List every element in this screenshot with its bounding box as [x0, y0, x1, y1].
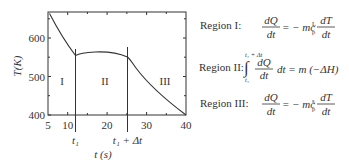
- eq3-num: dQ: [264, 91, 278, 103]
- eq1-den2: dt: [322, 28, 332, 40]
- equation-region-1: Region I: dQ dt = − mc L p dT dt: [200, 14, 335, 40]
- eq2-lower: t₁: [245, 76, 249, 83]
- x-tick-20: 20: [102, 119, 114, 131]
- y-tick-labels: 400 500 600: [29, 32, 46, 121]
- eq1-num: dQ: [264, 14, 278, 26]
- equation-region-2: Region II: ∫ t₁ + Δt t₁ dQ dt dt = m (−Δ…: [199, 51, 339, 83]
- region-label-3: III: [160, 75, 171, 87]
- x-axis-label: t (s): [94, 148, 112, 161]
- plot-frame: [48, 12, 186, 115]
- x-tick-30: 30: [141, 119, 153, 131]
- region-label-2: II: [101, 75, 109, 87]
- eq3-num2: dT: [320, 91, 333, 103]
- y-tick-500: 500: [29, 71, 46, 83]
- t1-dt-label: t₁ + Δt: [113, 134, 143, 146]
- eq2-den: dt: [260, 69, 270, 81]
- eq3-label: Region III:: [200, 97, 249, 109]
- y-ticks: [48, 19, 186, 115]
- y-tick-600: 600: [29, 32, 46, 44]
- temperature-chart: 400 500 600 5 10 20 30 40 I II III t₁ t₁…: [0, 0, 349, 165]
- eq1-num2: dT: [320, 14, 333, 26]
- equation-region-3: Region III: dQ dt = − mc s p dT dt: [200, 91, 335, 117]
- region-label-1: I: [60, 75, 64, 87]
- eq1-sup: L: [312, 20, 316, 27]
- y-tick-400: 400: [29, 109, 46, 121]
- x-tick-labels: 5 10 20 30 40: [45, 119, 192, 131]
- integral-sign: ∫: [243, 58, 250, 78]
- eq3-den2: dt: [322, 105, 332, 117]
- y-axis-label: T(K): [11, 55, 24, 76]
- eq2-rhs: dt = m (−ΔH): [277, 63, 339, 76]
- x-tick-5: 5: [45, 119, 51, 131]
- eq3-den: dt: [267, 105, 277, 117]
- eq2-label: Region II:: [199, 61, 244, 73]
- t1-label: t₁: [72, 134, 79, 146]
- eq1-mid: = − mc: [282, 21, 315, 33]
- eq1-sub: p: [312, 28, 315, 35]
- eq1-label: Region I:: [200, 19, 241, 31]
- eq3-mid: = − mc: [282, 98, 315, 110]
- x-tick-10: 10: [62, 119, 74, 131]
- eq1-den: dt: [267, 28, 277, 40]
- eq2-num: dQ: [257, 56, 271, 68]
- x-ticks: [68, 12, 167, 115]
- eq3-sub: p: [312, 105, 315, 112]
- temperature-curve: [50, 14, 187, 116]
- x-tick-40: 40: [181, 119, 193, 131]
